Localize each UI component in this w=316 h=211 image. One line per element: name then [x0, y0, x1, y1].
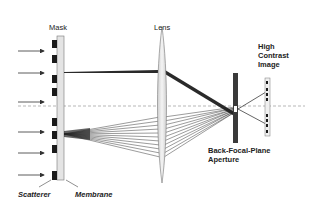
direct-beam	[64, 70, 158, 73]
lens-label: Lens	[154, 23, 171, 32]
scatterers	[52, 40, 57, 180]
image-label-line2: Contrast	[258, 51, 289, 60]
membrane	[57, 36, 64, 180]
lens	[158, 27, 167, 183]
image-label-line1: High	[258, 42, 275, 51]
aperture-label-line2: Aperture	[208, 155, 239, 164]
optics-diagram: Mask Lens High Contrast Image Back-Focal…	[0, 0, 316, 211]
image-label-line3: Image	[258, 60, 280, 69]
membrane-label: Membrane	[75, 190, 113, 199]
scatterer-pointer	[39, 180, 51, 187]
illumination-arrows	[18, 51, 44, 175]
aperture-label-line1: Back-Focal-Plane	[208, 146, 271, 155]
high-contrast-image	[265, 78, 270, 136]
scatterer-label: Scatterer	[18, 190, 52, 199]
image-rays	[238, 92, 266, 124]
membrane-pointer	[66, 180, 78, 187]
mask-label: Mask	[49, 23, 67, 32]
